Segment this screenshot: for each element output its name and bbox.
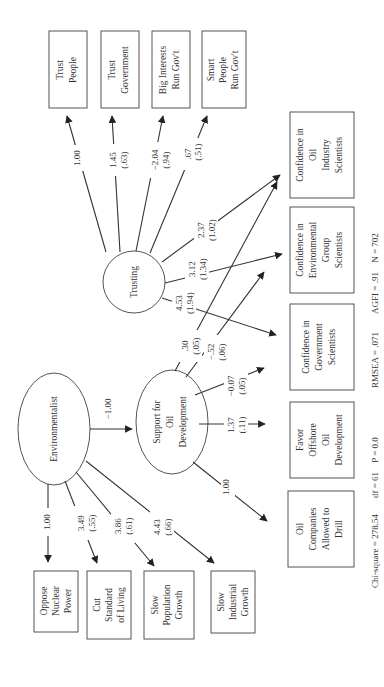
se-label: (1.02) — [207, 219, 217, 241]
box-slow-industrial: Slow Industrial Growth — [211, 571, 255, 633]
se-label: (1.34) — [198, 258, 208, 280]
box-oppose-nuclear: Oppose Nuclear Power — [34, 571, 78, 632]
box-text: Growth — [240, 587, 250, 616]
box-big-interests: Big Interests Run Gov't — [152, 31, 190, 108]
box-oil-companies-drill: Oil Companies Allowed to Drill — [288, 491, 354, 567]
fit-rmsea: RMSEA = .071 — [370, 332, 380, 388]
box-text: of Living — [116, 587, 126, 623]
box-confidence-oil-industry: Confidence in Oil Industry Scientists — [290, 112, 354, 198]
coef-label: .30 — [180, 340, 190, 352]
latent-environmentalist: Environmentalist — [18, 373, 90, 485]
box-text: Industry — [321, 139, 331, 171]
box-text: Power — [63, 588, 73, 613]
latent-label: Trusting — [129, 266, 139, 298]
se-label: (.94) — [161, 151, 171, 168]
box-text: Confidence in — [301, 320, 311, 374]
sem-diagram: Trust People Trust Government Big Intere… — [0, 0, 384, 687]
latent-label: Environmentalist — [49, 396, 59, 462]
box-text: Drill — [334, 520, 344, 538]
box-text: Favor — [295, 428, 305, 451]
se-label: (.55) — [87, 514, 97, 531]
latent-support-oil-development: Support for Oil Development — [136, 370, 208, 474]
coef-label: 1.00 — [221, 479, 231, 495]
box-text: Oil — [308, 149, 318, 162]
se-label: (.51) — [193, 143, 203, 160]
box-text: Confidence in — [295, 223, 305, 277]
box-text: Slow — [216, 592, 226, 612]
box-text: Population — [162, 584, 172, 625]
fit-n: N = 702 — [370, 233, 380, 263]
box-confidence-env-group: Confidence in Environmental Group Scient… — [290, 207, 354, 293]
box-text: Government — [314, 323, 324, 371]
se-label: (.61) — [124, 517, 134, 534]
box-text: Companies — [308, 507, 318, 550]
box-text: Scientists — [327, 328, 337, 365]
coef-label: 4.43 — [152, 519, 162, 535]
fit-df: df = 61 — [370, 472, 380, 498]
box-smart-people: Smart People Run Gov't — [202, 31, 246, 108]
coef-label: 1.45 — [108, 152, 118, 168]
box-trust-people: Trust People — [49, 31, 87, 108]
se-label: (.06) — [217, 343, 227, 360]
box-text: Run Gov't — [171, 50, 181, 89]
edges-trusting-indicators — [67, 116, 207, 253]
box-text: Nuclear — [51, 585, 61, 616]
coef-label: 3.86 — [113, 518, 123, 534]
box-cut-standard: Cut Standard of Living — [87, 571, 131, 639]
coef-label: 1.00 — [72, 150, 82, 166]
box-text: Scientists — [334, 231, 344, 268]
box-text: Big Interests — [158, 46, 168, 95]
se-label: (.63) — [119, 151, 129, 168]
se-label: (1.94) — [185, 292, 195, 314]
coef-label: 3.12 — [187, 261, 197, 277]
box-text: Allowed to — [321, 508, 331, 551]
coef-label: .67 — [183, 148, 193, 160]
box-text: Standard — [104, 588, 114, 622]
fit-p: P = 0.0 — [370, 437, 380, 463]
box-text: People — [218, 57, 228, 83]
fit-chi-square: Chi-square = 278.54 — [370, 514, 380, 588]
latent-label: Support for — [152, 399, 162, 443]
se-label: (.05) — [191, 337, 201, 354]
box-text: Environmental — [308, 221, 318, 278]
labels-env-indicators: 1.00 3.49 (.55) 3.86 (.61) 4.43 (.66) — [42, 506, 174, 544]
box-text: Growth — [174, 590, 184, 619]
latent-label: Oil — [165, 416, 175, 429]
box-trust-government: Trust Government — [101, 31, 139, 108]
box-text: Oil — [295, 523, 305, 536]
coef-label: −2.04 — [150, 149, 160, 170]
box-slow-population: Slow Population Growth — [144, 571, 194, 639]
se-label: (.11) — [237, 417, 247, 434]
box-text: Trust — [107, 60, 117, 80]
box-text: Run Gov't — [230, 50, 240, 89]
box-text: Oppose — [39, 586, 49, 615]
coef-label: 4.53 — [174, 295, 184, 311]
box-favor-offshore: Favor Offshore Oil Development — [290, 402, 354, 478]
box-text: Government — [120, 46, 130, 94]
box-confidence-government: Confidence in Government Scientists — [290, 304, 354, 390]
latent-trusting: Trusting — [103, 251, 165, 313]
coef-label: 1.00 — [42, 514, 52, 530]
se-label: (.66) — [163, 518, 173, 535]
coef-label: −0.07 — [226, 375, 236, 396]
se-label: (.05) — [237, 377, 247, 394]
box-text: Development — [334, 414, 344, 466]
coef-label: −.52 — [206, 344, 216, 360]
fit-statistics: Chi-square = 278.54 df = 61 P = 0.0 RMSE… — [370, 233, 380, 588]
box-text: Oil — [321, 434, 331, 447]
box-text: Offshore — [308, 423, 318, 457]
box-text: Slow — [150, 595, 160, 615]
box-text: Trust — [55, 60, 65, 80]
box-text: Cut — [92, 598, 102, 612]
box-text: Group — [321, 238, 331, 263]
box-text: People — [68, 57, 78, 83]
edge-env-to-support: −1.00 — [90, 398, 132, 429]
box-text: Industrial — [228, 583, 238, 620]
coef-label: −1.00 — [103, 398, 113, 419]
box-text: Smart — [206, 58, 216, 81]
coef-label: 3.49 — [76, 515, 86, 531]
box-text: Confidence in — [295, 128, 305, 182]
coef-label: 2.37 — [196, 222, 206, 238]
latent-label: Development — [178, 396, 188, 448]
box-text: Scientists — [334, 136, 344, 173]
